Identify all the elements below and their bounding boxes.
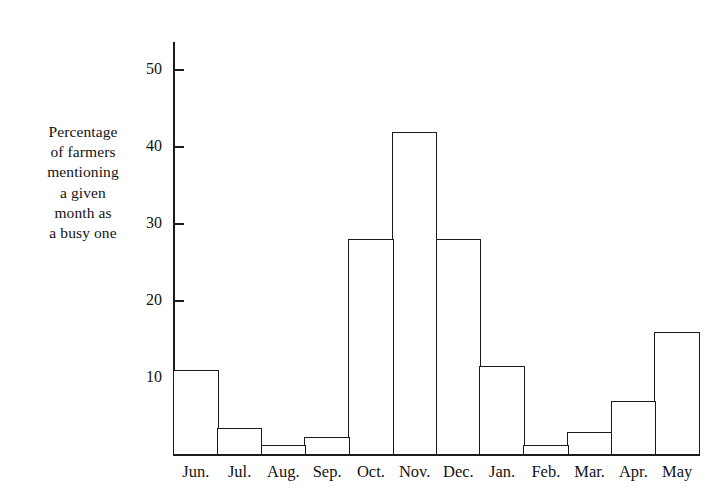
y-axis-tick-label-text: 20 bbox=[110, 292, 162, 308]
bar bbox=[611, 401, 656, 455]
y-axis-tick-mark bbox=[175, 146, 184, 148]
x-axis-tick-label: Feb. bbox=[524, 463, 568, 481]
bar bbox=[217, 428, 262, 455]
y-axis-tick-label-text: 50 bbox=[110, 61, 162, 77]
bar bbox=[654, 332, 699, 455]
plot-area: 1020304050 Jun.Jul.Aug.Sep.Oct.Nov.Dec.J… bbox=[0, 0, 725, 502]
y-axis-tick-mark bbox=[175, 223, 184, 225]
x-axis-tick-label: Mar. bbox=[568, 463, 612, 481]
x-axis-tick-label: Oct. bbox=[349, 463, 393, 481]
y-axis-tick-label: 20 bbox=[110, 292, 162, 308]
y-axis-tick-mark bbox=[175, 300, 184, 302]
y-axis-tick-label: 30 bbox=[110, 215, 162, 231]
y-axis-tick-label: 50 bbox=[110, 61, 162, 77]
y-axis-tick-label-text: 10 bbox=[110, 369, 162, 385]
x-axis-tick-label: Apr. bbox=[612, 463, 656, 481]
x-axis-tick-label: Jul. bbox=[218, 463, 262, 481]
x-axis-tick-label: Jun. bbox=[174, 463, 218, 481]
bar bbox=[436, 239, 481, 455]
bar bbox=[567, 432, 612, 455]
x-axis-tick-label: Dec. bbox=[437, 463, 481, 481]
chart-container: Percentage of farmers mentioning a given… bbox=[0, 0, 725, 502]
bar bbox=[523, 445, 568, 455]
y-axis-tick-label-text: 30 bbox=[110, 215, 162, 231]
x-axis-tick-label: Nov. bbox=[393, 463, 437, 481]
x-axis-tick-label: Jan. bbox=[480, 463, 524, 481]
y-axis-tick-mark bbox=[175, 69, 184, 71]
bar bbox=[479, 366, 524, 455]
y-axis-tick-label-text: 40 bbox=[110, 138, 162, 154]
bar bbox=[173, 370, 218, 455]
bar bbox=[348, 239, 393, 455]
bar bbox=[392, 132, 437, 455]
x-axis-tick-label: May bbox=[655, 463, 699, 481]
y-axis-tick-label: 40 bbox=[110, 138, 162, 154]
bar bbox=[261, 445, 306, 455]
y-axis-tick-label: 10 bbox=[110, 369, 162, 385]
bar bbox=[304, 437, 349, 455]
x-axis-tick-label: Sep. bbox=[305, 463, 349, 481]
x-axis-tick-label: Aug. bbox=[262, 463, 306, 481]
